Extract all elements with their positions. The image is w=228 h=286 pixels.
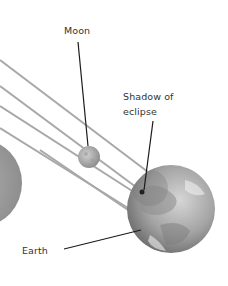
eclipse-shadow xyxy=(132,170,168,206)
shadow-label-line2: eclipse xyxy=(123,106,157,118)
earth xyxy=(127,165,215,253)
diagram-canvas xyxy=(0,0,228,286)
light-rays xyxy=(0,60,148,210)
earth-label: Earth xyxy=(22,245,48,257)
moon-label: Moon xyxy=(64,25,90,37)
moon xyxy=(78,146,100,168)
shadow-label-line1: Shadow of xyxy=(123,91,174,103)
shadow-spot xyxy=(140,190,145,195)
sun xyxy=(0,140,22,226)
eclipse-diagram: Moon Shadow of eclipse Earth xyxy=(0,0,228,286)
